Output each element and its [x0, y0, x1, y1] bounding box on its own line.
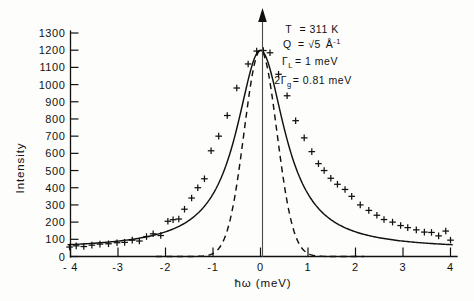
y-tick-label: 1000: [39, 79, 66, 91]
data-point-marker: [301, 135, 308, 142]
elastic-position-arrow: [258, 8, 267, 257]
data-point-marker: [253, 48, 260, 55]
data-point-marker: [442, 228, 449, 235]
arrow-head-icon: [258, 8, 267, 22]
y-tick-label: 200: [45, 216, 65, 228]
y-tick-label: 400: [45, 182, 65, 194]
data-point-marker: [357, 202, 364, 209]
y-axis-title: Intensity: [14, 143, 26, 194]
x-tick-label: 0: [257, 261, 264, 273]
x-axis-ticks: - 4-3-2-101234: [63, 248, 454, 273]
data-point-marker: [260, 47, 267, 54]
data-point-marker: [181, 206, 188, 213]
x-tick-label: - 4: [63, 261, 78, 273]
data-point-marker: [224, 112, 231, 119]
data-point-marker: [397, 222, 404, 229]
data-point-marker: [404, 224, 411, 231]
y-tick-label: 500: [45, 165, 65, 177]
data-point-marker: [421, 229, 428, 236]
data-point-marker: [97, 241, 104, 248]
data-point-marker: [165, 218, 172, 225]
y-tick-label: 800: [45, 113, 65, 125]
parameter-annotations: T = 311 K Q = √5Å-1 ΓL= 1 meV 2Γg= 0.81 …: [274, 23, 351, 89]
data-point-marker: [176, 216, 183, 223]
data-point-marker: [315, 160, 322, 167]
y-tick-label: 600: [45, 147, 65, 159]
data-point-marker: [215, 133, 222, 140]
data-point-marker: [143, 233, 150, 240]
annotation-temperature: T = 311 K: [285, 23, 338, 35]
data-point-marker: [328, 175, 335, 182]
y-tick-label: 300: [45, 199, 65, 211]
figure-container: 0100200300400500600700800900100011001200…: [0, 0, 474, 301]
x-tick-label: -1: [207, 261, 218, 273]
data-point-marker: [245, 61, 252, 68]
data-point-marker: [435, 233, 442, 240]
data-point-marker: [447, 237, 454, 244]
x-tick-label: -2: [160, 261, 171, 273]
y-tick-label: 1100: [39, 61, 65, 73]
data-point-marker: [374, 212, 381, 219]
data-point-marker: [233, 85, 240, 92]
x-tick-label: 2: [352, 261, 359, 273]
data-point-marker: [195, 184, 202, 191]
data-point-marker: [348, 193, 355, 200]
data-point-marker: [334, 181, 341, 188]
data-point-marker: [428, 229, 435, 236]
annotation-momentum-transfer: Q = √5Å-1: [283, 37, 341, 50]
data-point-marker: [267, 49, 274, 56]
data-point-marker: [413, 227, 420, 234]
data-point-marker: [284, 92, 291, 99]
x-tick-label: 3: [400, 261, 407, 273]
y-tick-label: 1200: [39, 44, 66, 56]
x-axis-title-group: ħω (meV): [234, 277, 291, 289]
data-point-marker: [188, 195, 195, 202]
data-point-marker: [366, 207, 373, 214]
x-tick-label: -3: [112, 261, 123, 273]
data-point-marker: [321, 167, 328, 174]
y-tick-label: 100: [45, 233, 65, 245]
data-point-marker: [381, 216, 388, 223]
data-point-marker: [309, 148, 316, 155]
y-axis-title-group: Intensity: [14, 143, 26, 194]
fit-curves: [68, 50, 452, 256]
annotation-lorentzian-width: ΓL= 1 meV: [282, 55, 338, 70]
data-point-marker: [170, 216, 177, 223]
data-point-marker: [129, 237, 136, 244]
data-points: [66, 47, 454, 250]
data-point-marker: [201, 175, 208, 182]
lorentzian-fit-curve: [68, 50, 452, 244]
data-point-marker: [342, 186, 349, 193]
x-axis-title: ħω (meV): [234, 277, 291, 289]
x-tick-label: 1: [305, 261, 312, 273]
y-axis-ticks: 0100200300400500600700800900100011001200…: [39, 27, 79, 263]
y-tick-label: 700: [45, 130, 65, 142]
x-tick-label: 4: [447, 261, 454, 273]
y-tick-label: 900: [45, 96, 65, 108]
axes: [71, 31, 458, 257]
neutron-spectrum-chart: 0100200300400500600700800900100011001200…: [0, 0, 474, 301]
data-point-marker: [389, 219, 396, 226]
data-point-marker: [292, 117, 299, 124]
y-tick-label: 1300: [39, 27, 66, 39]
data-point-marker: [208, 147, 215, 154]
annotation-gaussian-width: 2Γg= 0.81 meV: [274, 74, 351, 89]
